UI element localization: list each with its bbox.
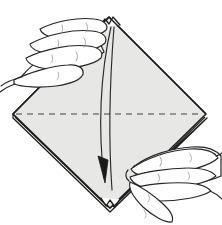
hand-bottom-right-crease-6: [144, 210, 146, 218]
hand-bottom-right-wrist-lower: [210, 191, 222, 199]
origami-diagram: Origami fold step: valley-fold square di…: [0, 0, 222, 225]
diagram-canvas: [0, 0, 222, 225]
